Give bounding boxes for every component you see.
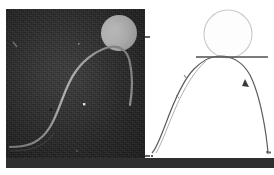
photo-vignette	[6, 9, 145, 158]
arrow-marker-schematic	[242, 79, 249, 87]
schematic-diagram-panel	[150, 9, 274, 158]
origin-dot-schematic	[151, 155, 153, 157]
profile-inner-curve-schematic	[156, 61, 206, 153]
point-marker-schematic	[269, 152, 271, 154]
figure-root	[0, 0, 274, 175]
profile-curve-right-schematic	[220, 56, 268, 154]
profile-curve-left-schematic	[152, 56, 220, 153]
schematic-panel-graphics	[150, 9, 274, 158]
substrate-bar	[6, 158, 274, 168]
endpoint-dot-schematic	[266, 151, 268, 153]
sphere-outline-schematic	[204, 10, 252, 58]
tick-marker-left-schematic	[184, 75, 187, 79]
experimental-photograph-panel	[6, 9, 145, 158]
